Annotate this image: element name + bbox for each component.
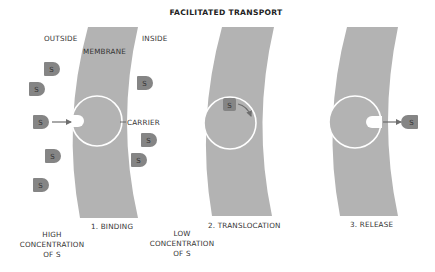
substrate-molecule: S bbox=[137, 76, 153, 90]
svg-text:S: S bbox=[34, 86, 39, 94]
svg-text:HIGH: HIGH bbox=[42, 230, 61, 239]
svg-text:S: S bbox=[142, 80, 147, 88]
svg-text:OF S: OF S bbox=[43, 250, 61, 259]
svg-text:OF S: OF S bbox=[173, 249, 191, 258]
svg-text:CONCENTRATION: CONCENTRATION bbox=[150, 239, 215, 248]
inside-label: INSIDE bbox=[142, 34, 168, 43]
low-concentration-label: LOW CONCENTRATION OF S bbox=[150, 229, 215, 258]
substrate-molecule-released: S bbox=[401, 115, 418, 129]
substrate-molecule: S bbox=[44, 62, 60, 76]
substrate-molecule: S bbox=[141, 133, 157, 147]
high-concentration-label: HIGH CONCENTRATION OF S bbox=[20, 230, 85, 259]
svg-text:S: S bbox=[49, 66, 54, 74]
step-label-release: 3. RELEASE bbox=[350, 220, 394, 229]
substrate-molecules-outside: S S S S S bbox=[29, 62, 61, 192]
substrate-molecule-bound: S bbox=[223, 98, 236, 111]
substrate-molecule: S bbox=[45, 149, 61, 163]
svg-text:S: S bbox=[50, 153, 55, 161]
facilitated-transport-diagram: FACILITATED TRANSPORT S S bbox=[0, 0, 435, 272]
panel-translocation bbox=[204, 27, 274, 216]
svg-text:S: S bbox=[146, 137, 151, 145]
svg-text:S: S bbox=[409, 119, 414, 127]
step-label-binding: 1. BINDING bbox=[91, 222, 133, 231]
step-label-translocation: 2. TRANSLOCATION bbox=[208, 221, 281, 230]
substrate-molecule: S bbox=[131, 153, 147, 167]
binding-site-notch bbox=[71, 115, 84, 127]
svg-text:S: S bbox=[136, 157, 141, 165]
substrate-molecule: S bbox=[29, 82, 45, 96]
panel-release bbox=[329, 27, 401, 216]
outside-label: OUTSIDE bbox=[44, 34, 78, 43]
svg-text:S: S bbox=[38, 119, 43, 127]
svg-text:S: S bbox=[227, 102, 232, 110]
diagram-title: FACILITATED TRANSPORT bbox=[169, 8, 283, 17]
binding-site-notch bbox=[366, 116, 382, 128]
membrane-label: MEMBRANE bbox=[83, 47, 126, 56]
substrate-molecule: S bbox=[33, 115, 49, 129]
svg-text:LOW: LOW bbox=[173, 229, 190, 238]
svg-text:S: S bbox=[38, 182, 43, 190]
svg-text:CONCENTRATION: CONCENTRATION bbox=[20, 240, 85, 249]
carrier-label: CARRIER bbox=[127, 118, 160, 127]
substrate-molecule: S bbox=[33, 178, 49, 192]
